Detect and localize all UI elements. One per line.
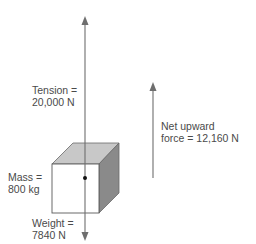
tension-label: Tension = 20,000 N (32, 84, 77, 108)
net-force-label-line2: force = 12,160 N (161, 132, 239, 144)
weight-label: Weight = 7840 N (32, 217, 74, 241)
weight-arrowhead-icon (82, 232, 89, 241)
net-force-label: Net upward force = 12,160 N (161, 120, 239, 144)
net-force-label-line1: Net upward (161, 120, 239, 132)
cube-front-face (52, 164, 99, 213)
tension-label-line1: Tension = (32, 84, 77, 96)
mass-label: Mass = 800 kg (8, 171, 42, 195)
weight-label-line1: Weight = (32, 217, 74, 229)
tension-label-line2: 20,000 N (32, 96, 77, 108)
weight-label-line2: 7840 N (32, 229, 74, 241)
net-force-arrowhead-icon (150, 82, 157, 91)
center-of-mass-dot (83, 176, 87, 180)
mass-label-line1: Mass = (8, 171, 42, 183)
mass-label-line2: 800 kg (8, 183, 42, 195)
tension-arrowhead-icon (82, 16, 89, 25)
